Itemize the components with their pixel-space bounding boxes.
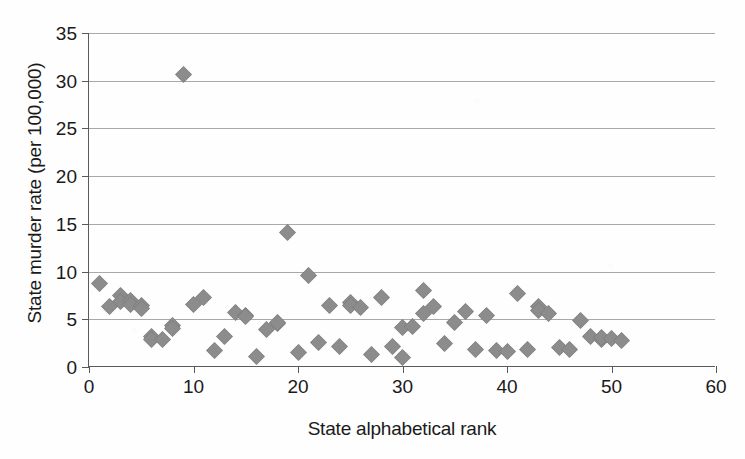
data-point-marker: [374, 290, 390, 306]
plot-area: 05101520253035 0102030405060: [88, 33, 715, 367]
scatter-plot-figure: State murder rate (per 100,000) 05101520…: [0, 0, 745, 459]
data-point-marker: [384, 339, 400, 355]
data-point-marker: [280, 225, 296, 241]
y-tick-label: 10: [31, 263, 77, 282]
x-tick-label: 40: [482, 377, 532, 396]
y-axis-title: State murder rate (per 100,000): [20, 0, 50, 388]
x-tick-label: 0: [64, 377, 114, 396]
y-tick-mark: [82, 272, 89, 273]
gridline: [89, 272, 715, 273]
x-tick-mark: [507, 366, 508, 373]
data-point-marker: [447, 314, 463, 330]
data-point-marker: [510, 286, 526, 302]
y-tick-label: 20: [31, 167, 77, 186]
y-tick-label: 30: [31, 72, 77, 91]
gridline: [89, 33, 715, 34]
data-point-marker: [248, 349, 264, 365]
y-tick-mark: [82, 319, 89, 320]
gridline: [89, 176, 715, 177]
data-point-marker: [207, 343, 223, 359]
data-point-marker: [92, 275, 108, 291]
data-point-marker: [520, 342, 536, 358]
x-tick-label: 60: [691, 377, 741, 396]
x-tick-mark: [612, 366, 613, 373]
data-point-marker: [332, 339, 348, 355]
data-point-marker: [437, 335, 453, 351]
y-tick-label: 0: [31, 358, 77, 377]
y-tick-mark: [82, 176, 89, 177]
data-point-marker: [478, 308, 494, 324]
data-point-marker: [499, 344, 515, 360]
x-tick-label: 20: [273, 377, 323, 396]
x-axis-title: State alphabetical rank: [88, 418, 716, 440]
data-point-marker: [363, 347, 379, 363]
x-tick-label: 10: [169, 377, 219, 396]
data-point-marker: [175, 66, 191, 82]
x-tick-mark: [194, 366, 195, 373]
data-point-marker: [405, 319, 421, 335]
data-point-marker: [290, 345, 306, 361]
y-tick-mark: [82, 128, 89, 129]
x-tick-mark: [89, 366, 90, 373]
y-tick-label: 5: [31, 310, 77, 329]
x-tick-mark: [716, 366, 717, 373]
x-tick-mark: [403, 366, 404, 373]
data-point-marker: [468, 342, 484, 358]
y-tick-label: 15: [31, 215, 77, 234]
y-tick-mark: [82, 33, 89, 34]
x-tick-mark: [298, 366, 299, 373]
data-point-marker: [395, 350, 411, 366]
gridline: [89, 128, 715, 129]
data-point-marker: [311, 334, 327, 350]
y-tick-label: 35: [31, 24, 77, 43]
gridline: [89, 224, 715, 225]
x-tick-label: 30: [378, 377, 428, 396]
data-point-marker: [301, 268, 317, 284]
y-tick-mark: [82, 81, 89, 82]
y-tick-mark: [82, 367, 89, 368]
x-tick-label: 50: [587, 377, 637, 396]
y-tick-label: 25: [31, 119, 77, 138]
data-point-marker: [217, 329, 233, 345]
data-point-marker: [572, 312, 588, 328]
data-point-marker: [322, 298, 338, 314]
data-point-marker: [416, 283, 432, 299]
data-point-marker: [457, 304, 473, 320]
y-tick-mark: [82, 224, 89, 225]
